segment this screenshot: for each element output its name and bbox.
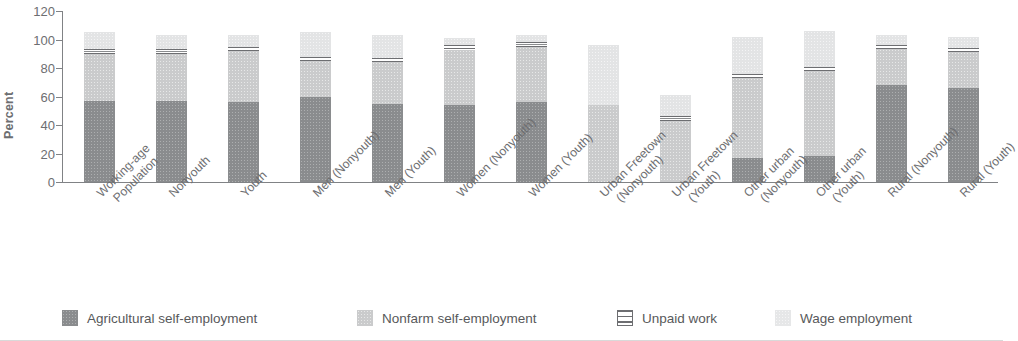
legend-swatch-nonfarm-icon	[357, 310, 373, 326]
legend-item-unpaid[interactable]: Unpaid work	[617, 306, 717, 330]
y-tick-mark-100	[56, 40, 62, 41]
x-tick-label: Rural (Youth)	[957, 140, 1018, 201]
x-tick-label-line: Rural (Youth)	[957, 140, 1017, 200]
x-tick-label: Women (Nonyouth)	[454, 115, 539, 200]
legend-label: Unpaid work	[642, 311, 717, 326]
legend-item-wage[interactable]: Wage employment	[775, 306, 912, 330]
x-tick-label: Rural (Nonyouth)	[885, 124, 961, 200]
chart-legend: Agricultural self-employmentNonfarm self…	[0, 306, 1003, 336]
x-tick-label: Urban Freetown(Nonyouth)	[597, 128, 680, 211]
x-tick-label-line: Men (Youth)	[382, 143, 439, 200]
y-tick-mark-80	[56, 68, 62, 69]
y-tick-mark-20	[56, 154, 62, 155]
x-tick-label: Urban Freetown(Youth)	[669, 128, 752, 211]
y-tick-mark-40	[56, 125, 62, 126]
legend-label: Wage employment	[800, 311, 912, 326]
x-tick-label-line: Women (Nonyouth)	[454, 115, 538, 199]
legend-label: Nonfarm self-employment	[382, 311, 537, 326]
legend-item-agri[interactable]: Agricultural self-employment	[62, 306, 257, 330]
legend-swatch-unpaid-icon	[617, 310, 633, 326]
y-tick-mark-120	[56, 11, 62, 12]
x-tick-label-line: Nonyouth	[166, 153, 213, 200]
legend-label: Agricultural self-employment	[87, 311, 257, 326]
x-tick-label: Men (Youth)	[382, 143, 439, 200]
x-tick-label: Working-agePopulation	[94, 141, 164, 211]
x-tick-label: Men (Nonyouth)	[310, 128, 382, 200]
x-tick-label-line: Men (Nonyouth)	[310, 128, 382, 200]
y-tick-mark-0	[56, 182, 62, 183]
x-tick-label-line: Youth	[238, 168, 270, 200]
x-tick-label: Other urban(Nonyouth)	[741, 142, 811, 212]
x-tick-label-line: Rural (Nonyouth)	[885, 124, 961, 200]
x-tick-label: Nonyouth	[166, 153, 213, 200]
legend-swatch-agri-icon	[62, 310, 78, 326]
x-tick-label: Other urban(Youth)	[813, 144, 880, 211]
x-tick-label: Women (Youth)	[526, 131, 596, 201]
y-tick-mark-60	[56, 97, 62, 98]
legend-swatch-wage-icon	[775, 310, 791, 326]
x-tick-label-line: Women (Youth)	[526, 131, 595, 200]
x-tick-label: Youth	[238, 168, 270, 200]
legend-item-nonfarm[interactable]: Nonfarm self-employment	[357, 306, 537, 330]
